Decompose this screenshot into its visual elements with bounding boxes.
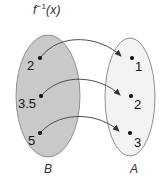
element-label-b-3.5: 3.5 — [18, 97, 36, 110]
point-a-1 — [130, 56, 134, 60]
element-label-a-2: 2 — [134, 98, 141, 111]
element-label-b-2: 2 — [27, 59, 34, 72]
point-b-3.5 — [39, 94, 43, 98]
set-label-a: A — [130, 163, 138, 175]
point-a-2 — [129, 94, 133, 98]
point-b-5 — [38, 131, 42, 135]
element-label-a-1: 1 — [135, 60, 142, 73]
element-label-a-3: 3 — [134, 136, 141, 149]
point-b-2 — [38, 56, 42, 60]
element-label-b-5: 5 — [28, 134, 35, 147]
mapping-canvas — [0, 0, 165, 186]
inverse-function-mapping-diagram: f−1(x) 2 3.5 5 1 2 3 B A — [0, 0, 165, 186]
set-label-b: B — [44, 163, 52, 175]
point-a-3 — [128, 131, 132, 135]
